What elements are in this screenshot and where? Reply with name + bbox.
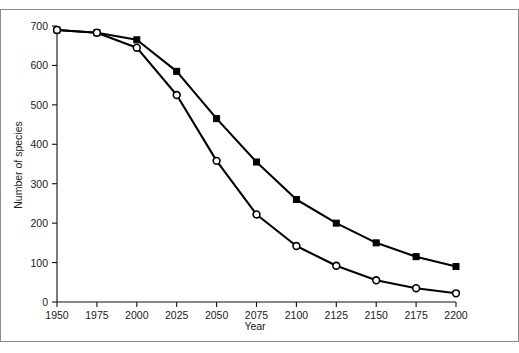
data-point-marker [214, 116, 220, 122]
x-tick-label: 2150 [365, 309, 389, 321]
data-point-marker [213, 157, 220, 164]
y-tick-label: 400 [30, 138, 48, 150]
axes: 0100200300400500600700 19501975200020252… [30, 20, 467, 321]
y-axis-title: Number of species [12, 121, 24, 209]
y-tick-label: 0 [42, 296, 48, 308]
x-tick-label: 2050 [205, 309, 229, 321]
x-axis-ticks [57, 302, 456, 307]
data-point-marker [333, 220, 339, 226]
x-tick-label: 2000 [125, 309, 149, 321]
x-tick-label: 1975 [85, 309, 109, 321]
y-tick-label: 200 [30, 217, 48, 229]
data-point-marker [333, 262, 340, 269]
y-tick-label: 300 [30, 178, 48, 190]
y-tick-label: 600 [30, 59, 48, 71]
data-point-marker [174, 68, 180, 74]
x-tick-label: 2175 [404, 309, 428, 321]
data-point-marker [373, 240, 379, 246]
series-line [57, 30, 456, 267]
data-point-marker [453, 264, 459, 270]
y-axis-ticks [52, 26, 57, 302]
y-tick-label: 100 [30, 257, 48, 269]
data-point-marker [94, 29, 101, 36]
y-tick-label: 700 [30, 20, 48, 32]
line-chart-plot: 0100200300400500600700 19501975200020252… [0, 0, 519, 353]
x-axis-title: Year [244, 320, 266, 332]
chart-figure: 0100200300400500600700 19501975200020252… [0, 0, 519, 353]
data-point-marker [293, 243, 300, 250]
x-tick-label: 2025 [165, 309, 189, 321]
data-series-group [54, 27, 460, 297]
data-point-marker [133, 44, 140, 51]
data-point-marker [453, 290, 460, 297]
data-point-marker [293, 196, 299, 202]
data-point-marker [373, 277, 380, 284]
y-tick-label: 500 [30, 99, 48, 111]
data-point-marker [254, 159, 260, 165]
data-point-marker [134, 37, 140, 43]
series-upper-series [54, 27, 459, 270]
data-point-marker [54, 27, 61, 34]
data-point-marker [413, 285, 420, 292]
x-tick-label: 1950 [45, 309, 69, 321]
data-point-marker [253, 211, 260, 218]
x-tick-label: 2200 [444, 309, 468, 321]
y-axis-tick-labels: 0100200300400500600700 [30, 20, 48, 308]
x-tick-label: 2125 [325, 309, 349, 321]
data-point-marker [413, 254, 419, 260]
data-point-marker [173, 92, 180, 99]
x-tick-label: 2100 [285, 309, 309, 321]
